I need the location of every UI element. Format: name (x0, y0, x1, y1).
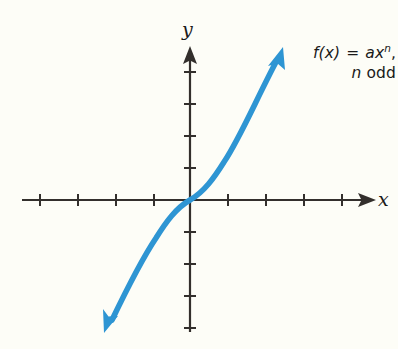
equation-equals-sign: = (340, 44, 365, 62)
equation-line-1: f(x) = axn, (298, 44, 396, 64)
equation-coefficient: a (365, 44, 375, 62)
odd-power-function-figure: y x f(x) = axn, n odd (0, 0, 398, 349)
parity-word: odd (362, 64, 397, 82)
equation-base-variable: x (375, 44, 384, 62)
curve-equation-annotation: f(x) = axn, n odd (298, 44, 396, 84)
y-axis-label: y (182, 20, 193, 39)
parity-variable: n (352, 64, 362, 82)
equation-exponent: n (384, 42, 391, 54)
equation-line-2: n odd (298, 64, 396, 84)
x-axis-label: x (378, 190, 389, 209)
odd-power-curve (112, 62, 276, 320)
equation-argument: (x) (319, 44, 341, 62)
equation-comma: , (391, 44, 396, 62)
